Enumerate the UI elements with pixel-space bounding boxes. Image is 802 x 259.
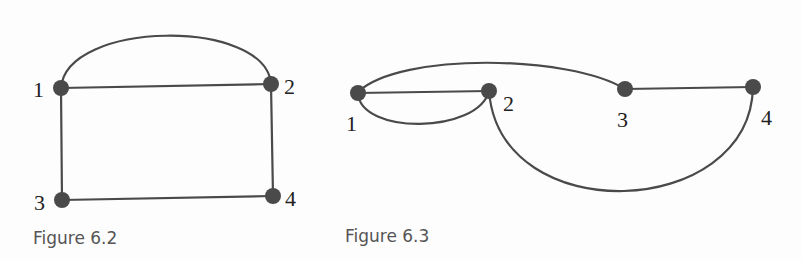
node-label-3: 3 [617,107,628,132]
node-4 [745,79,761,95]
node-1 [53,80,69,96]
edge-3-4 [625,87,753,89]
edge-2-4 [271,84,273,196]
node-label-1: 1 [346,111,357,136]
node-label-1: 1 [33,77,44,102]
node-2 [263,76,279,92]
node-2 [481,83,497,99]
figure-6-3: 1 2 3 4 Figure 6.3 [345,63,772,246]
edge-1-3 [61,88,62,200]
edge-2-4-arc [489,87,753,191]
node-3 [54,192,70,208]
node-label-3: 3 [34,190,45,215]
node-label-4: 4 [285,186,296,211]
node-1 [350,85,366,101]
edge-1-2 [358,91,489,93]
figure-caption: Figure 6.3 [345,226,429,246]
edge-3-4 [62,196,273,200]
figure-6-2: 1 2 3 4 Figure 6.2 [33,36,296,248]
graph-figures: 1 2 3 4 Figure 6.2 1 2 3 4 Figure 6.3 [0,0,802,259]
node-4 [265,188,281,204]
figure-page: 1 2 3 4 Figure 6.2 1 2 3 4 Figure 6.3 [0,0,802,259]
edge-1-2-arc [61,36,271,88]
node-3 [617,81,633,97]
edge-1-2 [61,84,271,88]
node-label-2: 2 [284,74,295,99]
figure-caption: Figure 6.2 [33,228,117,248]
edge-1-2-loop [358,91,489,124]
node-label-2: 2 [503,91,514,116]
node-label-4: 4 [761,105,772,130]
